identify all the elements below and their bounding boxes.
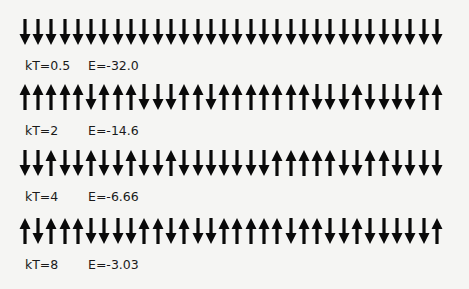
spin-up-arrow-icon: [217, 84, 230, 110]
spin-up-arrow-icon: [111, 84, 124, 110]
spin-down-arrow-icon: [31, 218, 44, 244]
spin-down-arrow-icon: [337, 19, 350, 45]
spin-down-arrow-icon: [138, 19, 151, 45]
spin-down-arrow-icon: [337, 218, 350, 244]
spin-down-arrow-icon: [71, 150, 84, 176]
spin-down-arrow-icon: [390, 218, 403, 244]
spin-down-arrow-icon: [164, 218, 177, 244]
spin-down-arrow-icon: [164, 19, 177, 45]
spin-up-arrow-icon: [18, 218, 31, 244]
spin-down-arrow-icon: [390, 19, 403, 45]
spin-down-arrow-icon: [31, 150, 44, 176]
spin-down-arrow-icon: [364, 84, 377, 110]
temperature-label: kT=0.5: [25, 58, 70, 73]
spin-up-arrow-icon: [191, 84, 204, 110]
spin-up-arrow-icon: [257, 218, 270, 244]
spin-up-arrow-icon: [350, 218, 363, 244]
spin-up-arrow-icon: [377, 150, 390, 176]
spin-up-arrow-icon: [311, 218, 324, 244]
energy-label: E=-3.03: [88, 257, 139, 272]
spin-down-arrow-icon: [417, 218, 430, 244]
spin-up-arrow-icon: [430, 218, 443, 244]
spin-up-arrow-icon: [231, 218, 244, 244]
spin-up-arrow-icon: [271, 150, 284, 176]
spin-down-arrow-icon: [284, 19, 297, 45]
spin-down-arrow-icon: [84, 218, 97, 244]
spin-up-arrow-icon: [58, 218, 71, 244]
spin-down-arrow-icon: [204, 19, 217, 45]
spin-up-arrow-icon: [84, 150, 97, 176]
spin-down-arrow-icon: [98, 150, 111, 176]
spin-down-arrow-icon: [324, 19, 337, 45]
spin-down-arrow-icon: [138, 84, 151, 110]
spin-up-arrow-icon: [297, 218, 310, 244]
spin-down-arrow-icon: [18, 19, 31, 45]
spin-up-arrow-icon: [138, 218, 151, 244]
spin-down-arrow-icon: [350, 19, 363, 45]
spin-down-arrow-icon: [178, 19, 191, 45]
temperature-label: kT=8: [25, 257, 58, 272]
spin-down-arrow-icon: [138, 150, 151, 176]
spin-down-arrow-icon: [84, 19, 97, 45]
spin-down-arrow-icon: [297, 19, 310, 45]
spin-down-arrow-icon: [191, 19, 204, 45]
spin-up-arrow-icon: [297, 150, 310, 176]
spin-up-arrow-icon: [124, 84, 137, 110]
spin-up-arrow-icon: [31, 84, 44, 110]
spin-up-arrow-icon: [271, 218, 284, 244]
spin-down-arrow-icon: [18, 150, 31, 176]
spin-down-arrow-icon: [204, 150, 217, 176]
spin-down-arrow-icon: [231, 19, 244, 45]
spin-chain: [18, 218, 444, 244]
spin-down-arrow-icon: [98, 19, 111, 45]
spin-chain: [18, 150, 444, 176]
spin-down-arrow-icon: [204, 84, 217, 110]
spin-up-arrow-icon: [178, 84, 191, 110]
energy-label: E=-6.66: [88, 189, 139, 204]
spin-down-arrow-icon: [417, 150, 430, 176]
spin-up-arrow-icon: [244, 218, 257, 244]
spin-up-arrow-icon: [151, 218, 164, 244]
spin-down-arrow-icon: [337, 84, 350, 110]
spin-down-arrow-icon: [98, 218, 111, 244]
spin-down-arrow-icon: [151, 150, 164, 176]
spin-down-arrow-icon: [404, 19, 417, 45]
spin-up-arrow-icon: [45, 84, 58, 110]
spin-down-arrow-icon: [377, 84, 390, 110]
spin-down-arrow-icon: [430, 19, 443, 45]
spin-down-arrow-icon: [111, 19, 124, 45]
spin-down-arrow-icon: [111, 218, 124, 244]
spin-up-arrow-icon: [271, 84, 284, 110]
spin-down-arrow-icon: [390, 150, 403, 176]
spin-down-arrow-icon: [217, 19, 230, 45]
spin-down-arrow-icon: [364, 218, 377, 244]
spin-up-arrow-icon: [257, 84, 270, 110]
spin-down-arrow-icon: [31, 19, 44, 45]
energy-label: E=-32.0: [88, 58, 139, 73]
spin-down-arrow-icon: [404, 218, 417, 244]
spin-up-arrow-icon: [417, 84, 430, 110]
spin-up-arrow-icon: [364, 150, 377, 176]
spin-down-arrow-icon: [124, 218, 137, 244]
spin-down-arrow-icon: [111, 150, 124, 176]
temperature-label: kT=2: [25, 123, 58, 138]
spin-down-arrow-icon: [58, 150, 71, 176]
spin-down-arrow-icon: [311, 19, 324, 45]
spin-down-arrow-icon: [244, 150, 257, 176]
spin-down-arrow-icon: [284, 218, 297, 244]
spin-down-arrow-icon: [271, 19, 284, 45]
spin-down-arrow-icon: [178, 150, 191, 176]
spin-up-arrow-icon: [58, 84, 71, 110]
spin-down-arrow-icon: [377, 19, 390, 45]
spin-up-arrow-icon: [284, 150, 297, 176]
spin-down-arrow-icon: [204, 218, 217, 244]
spin-up-arrow-icon: [231, 84, 244, 110]
spin-down-arrow-icon: [311, 84, 324, 110]
spin-down-arrow-icon: [377, 218, 390, 244]
spin-up-arrow-icon: [217, 218, 230, 244]
spin-up-arrow-icon: [350, 84, 363, 110]
spin-down-arrow-icon: [164, 84, 177, 110]
spin-up-arrow-icon: [164, 150, 177, 176]
temperature-label: kT=4: [25, 189, 58, 204]
spin-down-arrow-icon: [58, 19, 71, 45]
